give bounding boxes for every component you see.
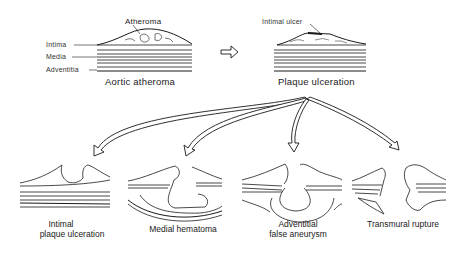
label-adventitia: Adventitia — [46, 66, 79, 73]
aortic-atheroma-illustration — [72, 25, 192, 71]
label-atheroma: Atheroma — [125, 17, 161, 26]
medial-hematoma-illustration — [128, 166, 222, 221]
caption-medial-hematoma: Medial hematoma — [133, 224, 233, 234]
caption-adventitial-false-aneurysm: Adventitial false aneurysm — [248, 219, 348, 239]
intimal-plaque-ulceration-illustration — [20, 165, 110, 207]
plaque-ulceration-illustration — [274, 24, 366, 71]
transmural-rupture-illustration — [352, 165, 446, 214]
diagram-canvas — [0, 0, 464, 256]
caption-plaque-ulceration: Plaque ulceration — [278, 76, 355, 87]
label-intima: Intima — [46, 41, 66, 48]
caption-aortic-atheroma: Aortic atheroma — [105, 76, 175, 87]
adventitial-false-aneurysm-illustration — [242, 164, 342, 222]
caption-transmural-rupture: Transmural rupture — [350, 219, 456, 229]
right-arrow-icon — [221, 46, 238, 58]
caption-intimal-plaque-ulceration: Intimal plaque ulceration — [22, 219, 122, 239]
label-media: Media — [46, 53, 66, 60]
branching-arrows — [94, 97, 399, 156]
label-intimal-ulcer: Intimal ulcer — [262, 18, 302, 25]
